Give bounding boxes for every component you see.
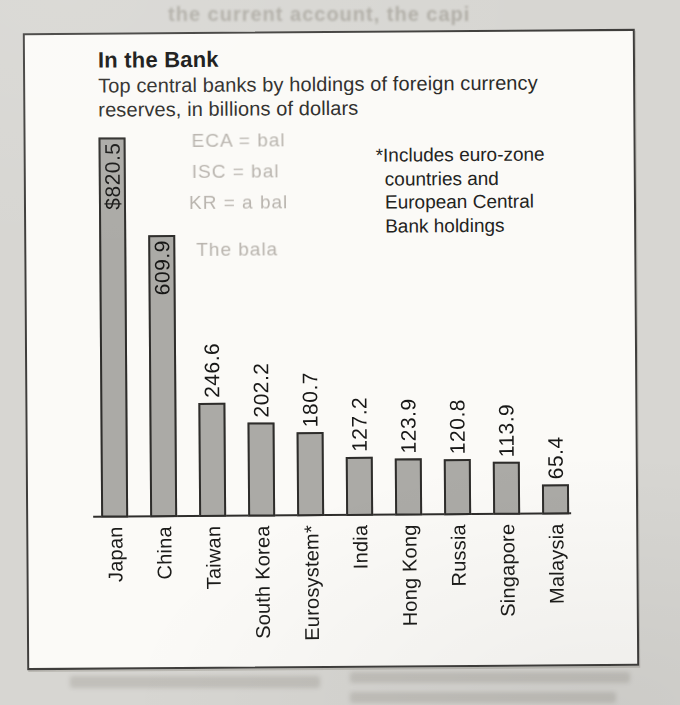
category-label-india: India: [348, 525, 372, 570]
category-label-hong-kong: Hong Kong: [397, 524, 422, 626]
scanned-page: the current account, the capi In the Ban…: [0, 0, 680, 705]
category-label-singapore: Singapore: [495, 524, 520, 617]
bar-value-label: 609.9: [150, 240, 174, 295]
chart-panel: In the Bank Top central banks by holding…: [23, 29, 639, 670]
bar-india: [346, 457, 373, 516]
ghost-smudge: [350, 692, 616, 703]
bar-value-label: 127.2: [347, 397, 371, 452]
bar-singapore: [493, 462, 520, 515]
bar-value-label: 123.9: [396, 398, 420, 453]
bar-value-label: 120.8: [445, 399, 469, 454]
category-label-china: China: [152, 526, 176, 579]
category-label-eurosystem: Eurosystem*: [299, 525, 324, 641]
bar-value-label: 180.7: [298, 372, 322, 427]
bar-eurosystem: [297, 432, 325, 516]
bar-malaysia: [542, 484, 569, 514]
ghost-smudge: [70, 676, 320, 688]
bar-value-label: 202.2: [249, 362, 273, 417]
category-label-malaysia: Malaysia: [544, 523, 569, 604]
plot-area: $820.5Japan609.9China246.6Taiwan202.2Sou…: [25, 31, 640, 535]
bar-value-label: 113.9: [494, 403, 518, 457]
bar-south-korea: [248, 422, 276, 516]
ghost-text-top: the current account, the capi: [168, 3, 470, 26]
bar-value-label: 246.6: [199, 343, 223, 398]
category-label-taiwan: Taiwan: [201, 526, 225, 590]
category-label-south-korea: South Korea: [250, 525, 275, 639]
bar-value-label: $820.5: [100, 142, 124, 209]
category-label-japan: Japan: [103, 526, 127, 582]
bar-russia: [444, 459, 471, 515]
ghost-smudge: [350, 672, 630, 683]
category-label-russia: Russia: [446, 524, 470, 587]
bar-taiwan: [198, 403, 226, 517]
bar-value-label: 65.4: [543, 436, 567, 479]
bar-hong-kong: [395, 458, 422, 515]
